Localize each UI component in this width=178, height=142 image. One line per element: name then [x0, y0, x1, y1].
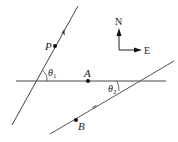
- compass-east-label: E: [144, 45, 150, 56]
- theta1-arc: [42, 70, 47, 81]
- east-arrowhead-icon: [134, 48, 142, 53]
- theta2-arc: [117, 81, 119, 91]
- line-through-p: [12, 6, 78, 125]
- compass-north-label: N: [115, 16, 122, 27]
- label-a: A: [83, 67, 91, 79]
- theta2-subscript: 2: [113, 88, 117, 96]
- label-p: P: [44, 40, 52, 52]
- label-b: B: [78, 120, 85, 132]
- label-theta2: θ2: [108, 83, 117, 96]
- north-arrowhead-icon: [117, 28, 122, 36]
- line-through-b: [50, 61, 174, 134]
- diagram-svg: P A B θ1 θ2 N E: [0, 0, 178, 142]
- theta1-subscript: 1: [53, 72, 57, 80]
- point-a: [86, 79, 90, 83]
- diagram-canvas: P A B θ1 θ2 N E: [0, 0, 178, 142]
- label-theta1: θ1: [48, 67, 57, 80]
- point-p: [53, 44, 57, 48]
- compass: N E: [115, 16, 150, 56]
